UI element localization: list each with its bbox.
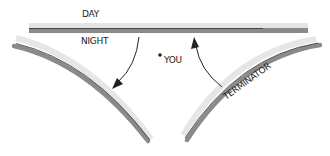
terminator-diagram: DAY NIGHT YOU TERMINATOR [0,0,330,156]
horizon-band [29,23,308,33]
day-label: DAY [82,9,100,19]
night-label: NIGHT [81,36,109,46]
arrow-down-icon [112,37,139,89]
you-dot [158,53,162,57]
arrow-up-icon [191,37,222,87]
you-label: YOU [163,55,182,65]
left-terminator-curve [14,38,151,141]
